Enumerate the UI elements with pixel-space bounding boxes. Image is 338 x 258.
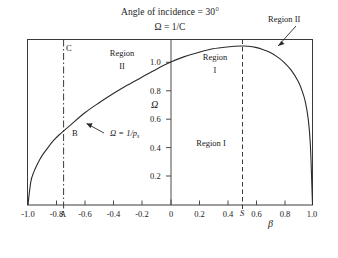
label-point-A: A <box>60 210 66 219</box>
plot-frame <box>28 40 313 206</box>
arrow-to-curve <box>87 123 105 133</box>
x-tick-label: 0.8 <box>280 210 291 219</box>
y-tick-marks <box>166 62 171 176</box>
y-tick-label: 1.0 <box>150 58 161 67</box>
region-I-lower-label: Region I <box>196 139 226 148</box>
x-tick-label: 1.0 <box>307 210 318 219</box>
y-axis-title: Ω <box>151 100 158 110</box>
curve-omega-equals-one-over-ps <box>28 46 313 204</box>
x-tick-label: 0.6 <box>251 210 262 219</box>
plot-svg <box>0 0 338 258</box>
region-II-callout-label: Region II <box>268 15 300 24</box>
y-tick-label: 0.2 <box>150 172 161 181</box>
label-point-C: C <box>66 44 72 53</box>
y-tick-label: 0.4 <box>150 144 161 153</box>
region-II-upper-numeral: II <box>119 62 125 71</box>
x-tick-label: -0.6 <box>78 210 91 219</box>
region-I-upper-word: Region <box>203 53 228 62</box>
y-tick-label: 0.8 <box>150 87 161 96</box>
x-tick-label: 0 <box>169 210 173 219</box>
region-II-upper-word: Region <box>110 49 135 58</box>
x-axis-title: β <box>268 219 273 229</box>
x-tick-label: -0.4 <box>107 210 120 219</box>
figure-root: Angle of incidence = 30° Ω = 1/C <box>0 0 338 258</box>
x-tick-marks <box>28 200 313 206</box>
curve-equation-subscript: s <box>137 133 139 139</box>
label-point-B: B <box>72 129 78 138</box>
x-tick-label: -0.2 <box>135 210 148 219</box>
x-tick-label: 0.2 <box>194 210 205 219</box>
y-tick-label: 0.6 <box>150 115 161 124</box>
curve-equation-main: Ω = 1/p <box>110 128 137 138</box>
arrow-region-II-callout <box>278 26 296 46</box>
curve-equation-annotation: Ω = 1/ps <box>110 129 139 139</box>
region-I-upper-numeral: I <box>214 66 217 75</box>
label-point-S: S <box>240 209 244 218</box>
x-tick-label: -1.0 <box>21 210 34 219</box>
x-tick-label: 0.4 <box>223 210 234 219</box>
